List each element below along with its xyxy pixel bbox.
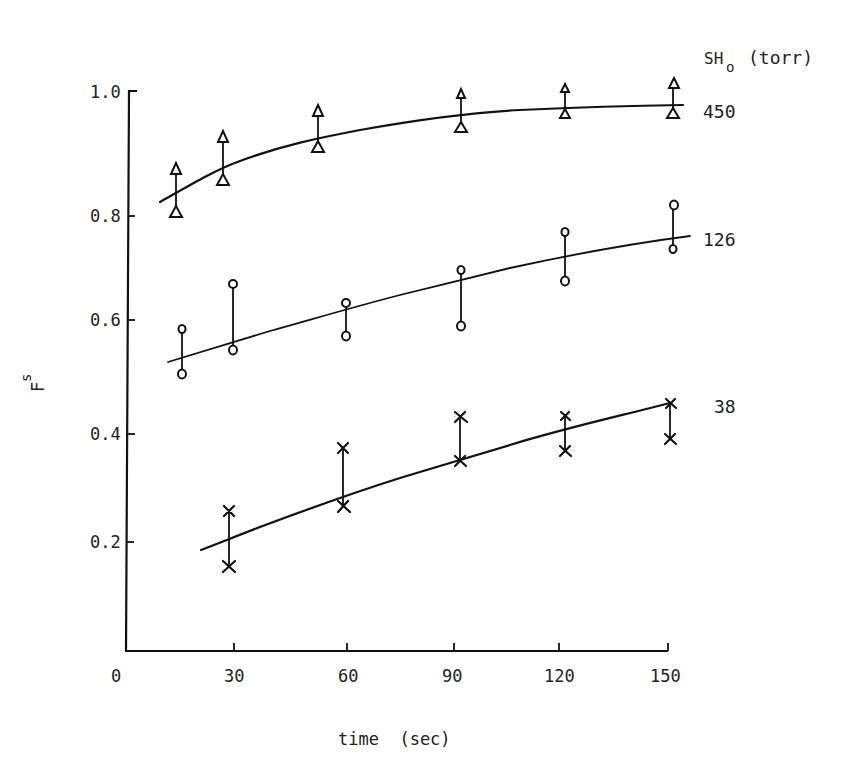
triangle-marker <box>561 84 569 92</box>
triangle-marker <box>312 141 324 152</box>
circle-marker <box>670 201 678 210</box>
x-tick-label-120: 120 <box>544 666 575 686</box>
series-38: 38 <box>201 396 736 572</box>
error-bars-38 <box>229 403 670 566</box>
triangle-marker <box>218 131 228 142</box>
circle-marker <box>229 280 237 288</box>
error-bars-126 <box>182 209 673 370</box>
fit-curve-450 <box>160 105 683 202</box>
triangle-marker <box>667 108 679 118</box>
y-tick-label-0.6: 0.6 <box>90 310 121 330</box>
x-tick-label-150: 150 <box>650 666 681 686</box>
circle-marker <box>562 228 569 236</box>
circle-marker <box>457 322 465 331</box>
triangle-marker <box>669 78 679 88</box>
x-axis-title: time (sec) <box>338 729 451 749</box>
y-tick-labels: 1.0 0.8 0.6 0.4 0.2 <box>90 82 121 552</box>
y-tick-label-0.4: 0.4 <box>90 424 121 444</box>
legend-title-sub: o <box>726 59 734 75</box>
circle-marker <box>229 346 237 355</box>
x-tick-label-60: 60 <box>338 666 358 686</box>
y-tick-label-1.0: 1.0 <box>90 82 121 102</box>
x-marker <box>338 501 350 512</box>
fs-vs-time-chart: 1.0 0.8 0.6 0.4 0.2 0 30 60 90 120 150 t… <box>0 0 858 776</box>
circle-marker <box>561 277 569 286</box>
fit-curve-126 <box>168 236 690 362</box>
triangle-marker <box>455 122 467 132</box>
circle-markers <box>178 201 678 379</box>
x-tick-label-0: 0 <box>111 666 121 686</box>
y-axis-title-sub: s <box>18 374 34 382</box>
triangle-marker <box>560 109 570 118</box>
y-axis-title: F s <box>18 374 48 392</box>
legend-title: SH o (torr) <box>704 47 813 75</box>
x-tick-label-30: 30 <box>224 666 244 686</box>
triangle-marker <box>457 89 465 98</box>
x-marker <box>455 412 467 422</box>
y-axis-title-main: F <box>28 382 48 392</box>
fit-curve-38 <box>201 403 670 550</box>
y-axis-line <box>126 91 137 651</box>
y-tick-label-0.2: 0.2 <box>90 532 121 552</box>
series-label-38: 38 <box>714 396 736 417</box>
series-450: 450 <box>160 78 736 217</box>
circle-marker <box>178 370 186 379</box>
triangle-marker <box>171 163 181 174</box>
circle-marker <box>670 245 677 253</box>
circle-marker <box>458 266 465 274</box>
circle-marker <box>179 325 186 333</box>
series-label-450: 450 <box>703 101 736 122</box>
x-markers <box>223 399 676 572</box>
x-tick-labels: 0 30 60 90 120 150 <box>111 666 681 686</box>
circle-marker <box>342 299 350 307</box>
triangle-marker <box>217 174 229 185</box>
triangle-marker <box>170 206 182 217</box>
triangle-markers <box>170 78 679 217</box>
series-label-126: 126 <box>703 229 736 250</box>
circle-marker <box>342 332 350 341</box>
triangle-marker <box>313 105 323 116</box>
series-126: 126 <box>168 201 736 379</box>
legend-title-unit: (torr) <box>748 47 813 68</box>
x-tick-label-90: 90 <box>442 666 462 686</box>
y-tick-label-0.8: 0.8 <box>90 206 121 226</box>
error-bars-450 <box>176 86 673 211</box>
legend-title-main: SH <box>704 49 723 68</box>
